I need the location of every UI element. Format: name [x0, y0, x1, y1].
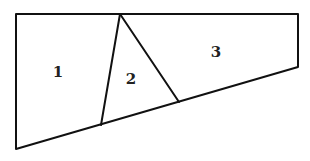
left-divider-line — [101, 14, 120, 125]
quadrilateral-outline — [16, 14, 298, 149]
partition-diagram: 1 2 3 — [0, 0, 310, 161]
region-1-label: 1 — [53, 63, 63, 81]
region-2-label: 2 — [126, 70, 136, 88]
region-3-label: 3 — [211, 43, 221, 61]
right-divider-line — [120, 14, 179, 102]
